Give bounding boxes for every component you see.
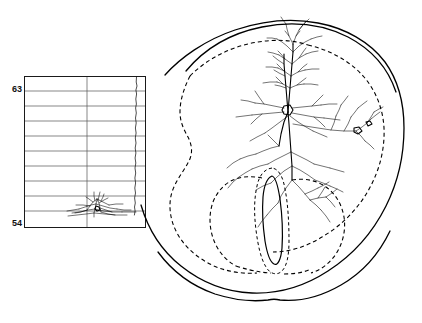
figure-root: 63 54 [0,0,422,323]
ventricle-outer-ring [255,168,289,274]
neuron-basal-dendrites [236,91,340,141]
left-depth-grid-panel: 63 54 [12,77,146,229]
grid-rows [25,91,145,211]
medial-boundary-left [210,177,262,266]
axis-label-bottom: 54 [12,218,22,228]
neuron-lower-terminals [305,182,337,207]
figure-canvas: 63 54 [0,0,422,323]
medial-boundary-right [292,179,345,273]
section-ventral-edge [158,231,390,301]
electrode-depth-trace [134,77,137,215]
axis-label-top: 63 [12,84,22,94]
neuron-inset-soma [95,206,100,211]
reconstructed-neuron [227,17,383,227]
panel-frame [25,77,146,228]
section-outer-outline [141,21,404,293]
ventral-seam-right [284,269,311,274]
neuron-axon-collaterals [227,135,344,227]
neuron-lateral-axon [293,96,383,149]
inner-boundary-right [273,45,384,252]
ventricle-lumen [263,176,283,264]
inner-boundary-left-lobe [170,76,257,273]
ventral-seam-left [236,266,271,273]
inner-boundary-left [190,40,308,76]
right-brain-section-panel [141,17,404,301]
